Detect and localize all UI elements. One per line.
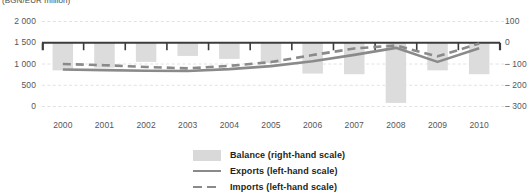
year-label: 2008 (374, 120, 418, 130)
left-axis-tick-label: 1 000 (0, 59, 36, 69)
left-axis-tick-label: 1 500 (0, 37, 36, 47)
year-label: 2001 (82, 120, 126, 130)
legend-swatch-icon (193, 166, 221, 177)
year-label: 2005 (249, 120, 293, 130)
chart-legend: Balance (right-hand scale)Exports (left-… (193, 147, 345, 195)
balance-bar (219, 43, 240, 59)
legend-item: Imports (left-hand scale) (193, 179, 345, 195)
right-axis-tick-label: – 200 (505, 80, 531, 90)
year-label: 2004 (207, 120, 251, 130)
balance-bar (177, 43, 198, 56)
right-axis-tick-label: 100 (505, 16, 531, 26)
year-label: 2007 (332, 120, 376, 130)
right-axis-tick-label: – 100 (505, 59, 531, 69)
right-axis-tick-label: 0 (505, 37, 531, 47)
balance-bar (94, 43, 115, 68)
left-axis-tick-label: 500 (0, 80, 36, 90)
legend-item: Balance (right-hand scale) (193, 147, 345, 163)
right-axis-tick-label: – 300 (505, 101, 531, 111)
trade-balance-chart: (BGN/EUR million) 05001 0001 5002 000 – … (0, 0, 532, 196)
legend-item: Exports (left-hand scale) (193, 163, 345, 179)
year-label: 2010 (457, 120, 501, 130)
legend-swatch-icon (193, 150, 221, 161)
legend-label: Balance (right-hand scale) (230, 150, 345, 160)
year-label: 2006 (291, 120, 335, 130)
balance-bar (386, 43, 407, 103)
legend-label: Exports (left-hand scale) (230, 166, 338, 176)
balance-bar (136, 43, 157, 62)
year-label: 2002 (124, 120, 168, 130)
legend-swatch-icon (193, 182, 221, 193)
balance-bar (53, 43, 73, 71)
year-label: 2009 (416, 120, 460, 130)
left-axis-tick-label: 2 000 (0, 16, 36, 26)
balance-bar (469, 43, 490, 74)
balance-bar (302, 43, 323, 74)
year-label: 2000 (41, 120, 85, 130)
year-label: 2003 (166, 120, 210, 130)
legend-label: Imports (left-hand scale) (230, 182, 337, 192)
left-axis-tick-label: 0 (0, 101, 36, 111)
